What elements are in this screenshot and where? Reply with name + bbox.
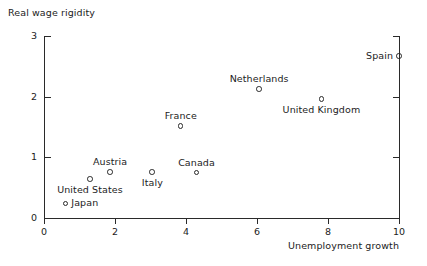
data-point-marker (107, 169, 113, 175)
data-point-label: Canada (178, 157, 215, 168)
x-tick-6 (257, 219, 258, 224)
data-point-label: United Kingdom (283, 104, 361, 115)
x-tick-0 (44, 219, 45, 224)
x-tick-8 (328, 219, 329, 224)
x-axis-title: Unemployment growth (288, 240, 399, 251)
data-point-marker (178, 123, 184, 129)
data-point-label: Austria (93, 156, 127, 167)
y-tick-label-0: 0 (31, 212, 37, 223)
y-tick-label-2: 2 (31, 91, 37, 102)
x-tick-2 (115, 219, 116, 224)
y-tick-label-1: 1 (31, 151, 37, 162)
data-point-label: France (165, 110, 197, 121)
x-tick-4 (186, 219, 187, 224)
scatter-chart-figure: Real wage rigidity Unemployment growth 0… (0, 0, 427, 266)
y-tick-right-1 (393, 157, 399, 158)
data-point-marker (319, 96, 325, 102)
x-tick-label-4: 4 (183, 226, 189, 237)
y-axis-title: Real wage rigidity (8, 7, 95, 18)
data-point-marker (256, 86, 262, 92)
y-tick-left-3 (45, 36, 51, 37)
data-point-marker (396, 53, 402, 59)
x-tick-label-0: 0 (41, 226, 47, 237)
x-tick-label-8: 8 (325, 226, 331, 237)
data-point-marker (194, 170, 200, 176)
data-point-label: Netherlands (230, 73, 289, 84)
data-point-label: Italy (142, 177, 163, 188)
y-tick-right-2 (393, 97, 399, 98)
data-point-marker (149, 169, 155, 175)
data-point-marker (87, 176, 93, 182)
y-tick-label-3: 3 (31, 30, 37, 41)
x-axis-line (44, 218, 400, 219)
x-tick-10 (399, 219, 400, 224)
x-tick-label-10: 10 (393, 226, 405, 237)
y-axis-line-right (399, 36, 400, 219)
y-axis-line-left (44, 36, 45, 219)
y-tick-left-2 (45, 97, 51, 98)
data-point-label: Spain (366, 50, 393, 61)
y-tick-left-1 (45, 157, 51, 158)
x-tick-label-2: 2 (112, 226, 118, 237)
y-tick-right-3 (393, 36, 399, 37)
x-tick-label-6: 6 (254, 226, 260, 237)
data-point-marker (63, 201, 69, 207)
data-point-label: United States (57, 184, 123, 195)
data-point-label: Japan (71, 197, 98, 208)
